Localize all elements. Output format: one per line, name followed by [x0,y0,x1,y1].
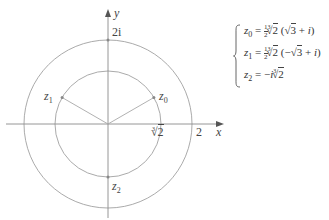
label-z1: z1 [44,90,53,105]
equals-sign: = [255,68,261,80]
point-z1 [61,96,64,99]
y-axis-arrow-icon [105,9,111,17]
eq-sub: 0 [248,30,252,39]
x-axis-label: x [216,126,221,138]
plus-sign: + [299,24,305,36]
radical-sign-icon: √ [291,46,297,58]
label-z2-sub: 2 [117,186,121,195]
radicand: 2 [273,23,279,36]
paren-close: ) [311,24,315,36]
eq-sub: 2 [248,74,252,83]
equation-z2: z2 = −i3√2 [244,68,284,83]
tick-label-cbrt2: 3√2 [152,126,164,138]
radicand: 2 [278,67,284,80]
radical-sign-icon: √ [151,125,158,139]
radical-sign-icon: √ [284,24,290,36]
tick-2i-text: 2i [112,25,121,39]
equation-z1: z1 = 123√2 (−√3 + i) [244,46,321,61]
point-2i [107,39,110,42]
equation-z0: z0 = 123√2 (√3 + i) [244,24,314,39]
plus-sign: + [305,46,311,58]
label-z0: z0 [159,90,168,105]
radical-sign-icon: √ [267,46,273,58]
left-brace-icon [233,24,241,88]
label-z0-sub: 0 [164,96,168,105]
y-axis-label: y [114,7,119,19]
sqrt-radicand: 3 [291,23,297,36]
paren-close: ) [317,46,321,58]
point-z0 [152,96,155,99]
radicand: 2 [273,45,279,58]
eq-sub: 1 [248,52,252,61]
radicand: 2 [158,124,164,139]
equals-sign: = [255,46,261,58]
tick-label-2: 2 [196,126,202,138]
ray-z0 [108,98,154,125]
label-z1-sub: 1 [49,96,53,105]
radical-sign-icon: √ [267,24,273,36]
tick-label-2i: 2i [112,26,121,38]
point-z2 [107,176,110,179]
label-z2: z2 [112,180,121,195]
equals-sign: = [255,24,261,36]
sqrt-radicand: 3 [297,45,303,58]
ray-z1 [62,98,108,125]
